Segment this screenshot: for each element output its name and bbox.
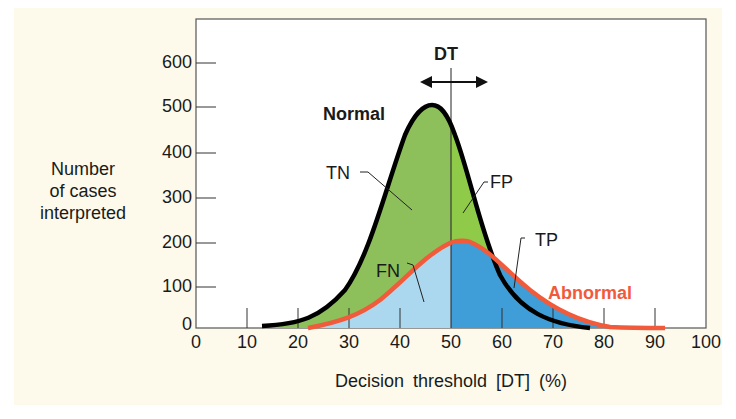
x-tick-20: 20 [278, 332, 318, 353]
dt-label: DT [434, 44, 458, 65]
fp-label: FP [490, 172, 513, 193]
x-tick-100: 100 [686, 332, 726, 353]
fn-label: FN [376, 261, 400, 282]
x-tick-30: 30 [329, 332, 369, 353]
y-tick-200: 200 [142, 232, 192, 253]
y-tick-500: 500 [142, 96, 192, 117]
x-tick-0: 0 [176, 332, 216, 353]
tn-label: TN [326, 163, 350, 184]
x-tick-40: 40 [380, 332, 420, 353]
y-axis-label-line1: Number [20, 158, 146, 180]
normal-label: Normal [323, 104, 385, 125]
x-tick-90: 90 [635, 332, 675, 353]
x-axis-label: Decision threshold [DT] (%) [196, 371, 706, 392]
x-tick-70: 70 [533, 332, 573, 353]
y-tick-300: 300 [142, 187, 192, 208]
tp-label: TP [535, 230, 558, 251]
y-axis-label-line3: interpreted [20, 202, 146, 224]
x-tick-80: 80 [584, 332, 624, 353]
x-tick-60: 60 [482, 332, 522, 353]
y-axis-label: Number of cases interpreted [20, 158, 146, 224]
y-axis-label-line2: of cases [20, 180, 146, 202]
x-tick-10: 10 [227, 332, 267, 353]
x-tick-50: 50 [431, 332, 471, 353]
y-tick-100: 100 [142, 276, 192, 297]
y-tick-600: 600 [142, 52, 192, 73]
y-tick-400: 400 [142, 142, 192, 163]
abnormal-label: Abnormal [548, 283, 632, 304]
